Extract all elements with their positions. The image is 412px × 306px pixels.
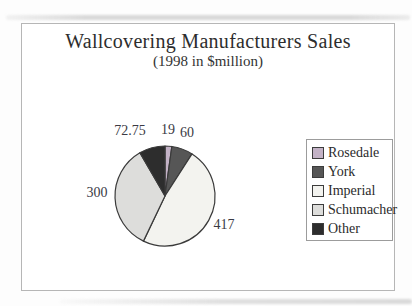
pie-value-label-york: 60	[180, 125, 194, 140]
legend: RosedaleYorkImperialSchumacherOther	[306, 139, 393, 241]
pie-value-label-schumacher: 300	[87, 185, 108, 200]
legend-item-york: York	[312, 162, 392, 181]
legend-item-schumacher: Schumacher	[312, 200, 392, 219]
pie-value-label-imperial: 417	[214, 217, 235, 232]
pie-value-label-rosedale: 19	[161, 122, 175, 137]
chart-figure: Wallcovering Manufacturers Sales (1998 i…	[0, 0, 412, 306]
legend-label: Schumacher	[328, 203, 397, 217]
legend-swatch-other	[312, 223, 324, 235]
legend-item-rosedale: Rosedale	[312, 143, 392, 162]
legend-swatch-schumacher	[312, 204, 324, 216]
legend-swatch-rosedale	[312, 147, 324, 159]
legend-label: Imperial	[328, 184, 375, 198]
legend-swatch-york	[312, 166, 324, 178]
scan-artifact-bottom	[60, 299, 412, 304]
legend-items: RosedaleYorkImperialSchumacherOther	[312, 143, 392, 238]
legend-item-other: Other	[312, 219, 392, 238]
legend-swatch-imperial	[312, 185, 324, 197]
legend-label: Other	[328, 222, 360, 236]
legend-item-imperial: Imperial	[312, 181, 392, 200]
legend-label: York	[328, 165, 355, 179]
legend-label: Rosedale	[328, 146, 379, 160]
pie-value-label-other: 72.75	[114, 123, 146, 138]
